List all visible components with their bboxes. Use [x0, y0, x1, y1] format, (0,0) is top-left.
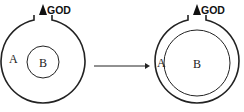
right-up-arrow-icon — [193, 4, 201, 15]
left-figure: GOD A B — [1, 4, 85, 103]
right-outer-label: A — [157, 56, 166, 70]
right-figure: GOD A B — [155, 4, 239, 103]
left-god-label: GOD — [47, 4, 71, 16]
left-up-arrow-icon — [39, 4, 47, 15]
left-inner-label: B — [39, 56, 47, 70]
right-god-label: GOD — [201, 4, 225, 16]
diagram: GOD A B GOD A B — [0, 0, 244, 112]
arrow-head-icon — [145, 63, 150, 69]
transition-arrow — [94, 63, 150, 69]
right-inner-label: B — [193, 57, 201, 71]
left-outer-label: A — [9, 52, 18, 66]
